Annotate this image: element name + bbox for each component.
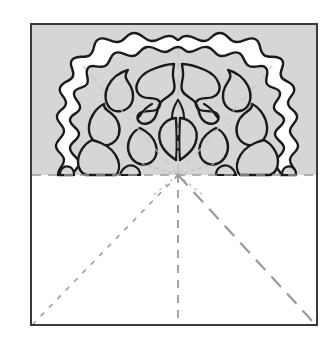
- figure-canvas: [0, 0, 334, 352]
- motif-base-notch-far-left: [60, 166, 74, 175]
- motif-base-notch-far-right: [282, 166, 296, 175]
- kirigami-diagram: [0, 0, 334, 352]
